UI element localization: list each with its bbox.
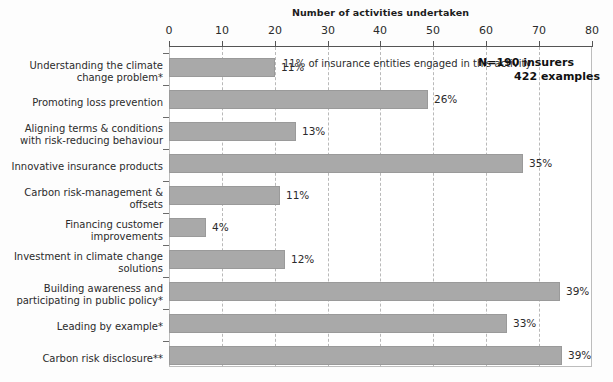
bar-value-2: 13%	[302, 125, 325, 137]
category-label-0: Understanding the climate change problem…	[3, 60, 163, 83]
bar-value-7: 39%	[566, 285, 589, 297]
x-tick-label-10: 10	[215, 24, 229, 37]
y-axis-tick-9	[163, 341, 169, 342]
bar-9	[169, 346, 562, 365]
x-tick-label-50: 50	[426, 24, 440, 37]
y-axis-tick-6	[163, 245, 169, 246]
category-label-9: Carbon risk disclosure**	[3, 353, 163, 365]
bar-5	[169, 218, 206, 237]
x-tick-label-60: 60	[479, 24, 493, 37]
x-axis-tick-labels: 0 10 20 30 40 50 60 70 80	[0, 24, 613, 40]
category-label-1: Promoting loss prevention	[3, 97, 163, 109]
x-tick-label-0: 0	[166, 24, 173, 37]
bar-value-3: 35%	[529, 157, 552, 169]
y-axis-tick-1	[163, 85, 169, 86]
bar-6	[169, 250, 285, 269]
category-label-5: Financing customer improvements	[3, 219, 163, 242]
bar-value-9: 39%	[568, 349, 591, 361]
bar-1	[169, 90, 428, 109]
bar-value-6: 12%	[291, 253, 314, 265]
category-label-4: Carbon risk-management & offsets	[3, 187, 163, 210]
x-tick-label-70: 70	[532, 24, 546, 37]
sample-size-line1: N=190 insurers	[478, 56, 574, 69]
category-label-7: Building awareness and participating in …	[3, 283, 163, 306]
y-axis-tick-8	[163, 309, 169, 310]
gridline-70	[539, 47, 540, 367]
y-axis-tick-2	[163, 117, 169, 118]
x-tick-label-80: 80	[585, 24, 599, 37]
y-axis-tick-0	[163, 53, 169, 54]
y-axis-tick-5	[163, 213, 169, 214]
bar-value-4: 11%	[286, 189, 309, 201]
bar-0	[169, 58, 275, 77]
chart-axis-title: Number of activities undertaken	[169, 7, 592, 18]
bar-value-1: 26%	[434, 93, 457, 105]
x-tick-label-40: 40	[373, 24, 387, 37]
category-label-2: Aligning terms & conditions with risk-re…	[3, 123, 163, 146]
y-axis-tick-7	[163, 277, 169, 278]
category-label-3: Innovative insurance products	[3, 161, 163, 173]
bar-value-8: 33%	[513, 317, 536, 329]
y-axis-tick-4	[163, 181, 169, 182]
bar-3	[169, 154, 523, 173]
category-label-6: Investment in climate change solutions	[3, 251, 163, 274]
x-axis-tick-80	[592, 41, 593, 47]
y-axis-tick-3	[163, 149, 169, 150]
sample-size-line2: 422 examples	[478, 70, 606, 84]
bar-value-5: 4%	[212, 221, 229, 233]
bar-4	[169, 186, 280, 205]
bar-2	[169, 122, 296, 141]
x-tick-label-30: 30	[321, 24, 335, 37]
bar-8	[169, 314, 507, 333]
sample-size-annotation: N=190 insurers 422 examples	[478, 56, 606, 84]
category-label-8: Leading by example*	[3, 321, 163, 333]
bar-chart: Number of activities undertaken 0 10 20 …	[0, 0, 613, 382]
bar-7	[169, 282, 560, 301]
x-tick-label-20: 20	[268, 24, 282, 37]
